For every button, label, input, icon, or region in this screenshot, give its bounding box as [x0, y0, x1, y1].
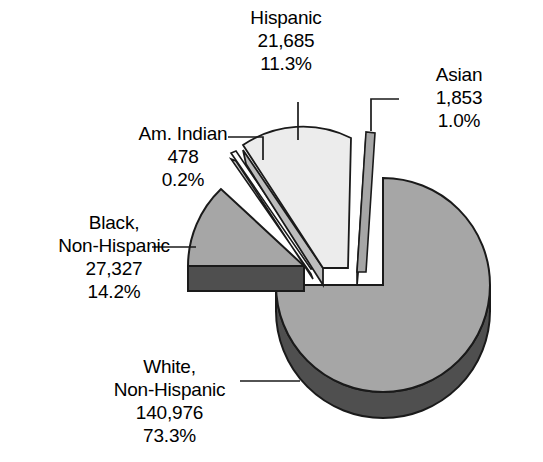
slice-label-asian-percent: 1.0% [404, 109, 514, 132]
slice-label-black-value: 27,327 [14, 257, 214, 280]
slice-label-am-indian: Am. Indian 478 0.2% [108, 122, 258, 191]
slice-label-black-percent: 14.2% [14, 280, 214, 303]
slice-label-am-indian-percent: 0.2% [108, 168, 258, 191]
leader-line-asian [371, 99, 399, 131]
slice-label-white-name-line2: Non-Hispanic [62, 378, 277, 401]
slice-label-am-indian-value: 478 [108, 145, 258, 168]
slice-label-asian-value: 1,853 [404, 86, 514, 109]
slice-label-asian-name: Asian [404, 63, 514, 86]
slice-label-asian: Asian 1,853 1.0% [404, 63, 514, 132]
slice-label-am-indian-name: Am. Indian [108, 122, 258, 145]
slice-label-white-non-hispanic: White, Non-Hispanic 140,976 73.3% [62, 355, 277, 447]
slice-label-white-name-line1: White, [62, 355, 277, 378]
slice-label-hispanic-name: Hispanic [211, 6, 361, 29]
pie-chart-figure: Hispanic 21,685 11.3% Asian 1,853 1.0% A… [0, 0, 543, 462]
slice-label-black-name-line1: Black, [14, 211, 214, 234]
slice-label-hispanic-value: 21,685 [211, 29, 361, 52]
slice-label-black-non-hispanic: Black, Non-Hispanic 27,327 14.2% [14, 211, 214, 303]
pie-slice-asian [357, 132, 375, 286]
slice-label-hispanic-percent: 11.3% [211, 52, 361, 75]
slice-label-black-name-line2: Non-Hispanic [14, 234, 214, 257]
slice-label-white-percent: 73.3% [62, 424, 277, 447]
slice-label-white-value: 140,976 [62, 401, 277, 424]
pie-slice-asian-top [357, 132, 375, 272]
slice-label-hispanic: Hispanic 21,685 11.3% [211, 6, 361, 75]
